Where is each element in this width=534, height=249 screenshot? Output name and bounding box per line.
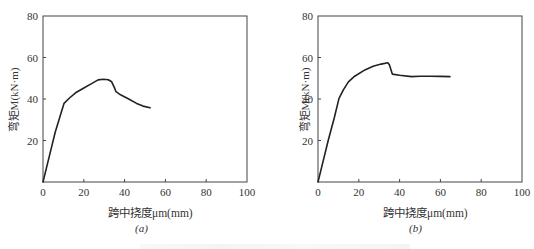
x-tick-label: 60 [435,186,447,198]
y-tick-label: 60 [27,52,39,64]
y-tick-label: 40 [27,93,39,105]
y-axis-label-b: 弯矩M(kN·m) [296,63,312,137]
plot-frame [43,16,247,182]
x-tick-label: 0 [40,186,46,198]
subplot-label-b: (b) [409,222,422,234]
x-tick-label: 0 [315,186,321,198]
y-tick-label: 80 [302,10,314,22]
y-tick-label: 60 [302,52,314,64]
x-tick-label: 80 [201,186,213,198]
subplot-label-a: (a) [135,222,148,234]
chart-panel-a: 02040608010020406080 弯矩M(kN·m) 跨中挠度μm(mm… [0,0,267,249]
x-axis-label-b: 跨中挠度μm(mm) [383,204,468,220]
x-axis-label-a: 跨中挠度μm(mm) [108,204,193,220]
x-tick-label: 20 [353,186,365,198]
y-tick-label: 80 [27,10,39,22]
chart-panel-b: 02040608010020406080 弯矩M(kN·m) 跨中挠度μm(mm… [267,0,534,249]
x-tick-label: 60 [160,186,172,198]
x-tick-label: 100 [514,186,531,198]
x-tick-label: 100 [239,186,256,198]
data-curve [318,63,450,182]
figure-caption-cropped [140,244,410,249]
y-axis-label-a: 弯矩M(kN·m) [5,63,21,137]
y-tick-label: 20 [27,135,39,147]
x-tick-label: 40 [119,186,131,198]
plot-frame [318,16,522,182]
x-tick-label: 40 [394,186,406,198]
data-curve [43,79,150,182]
x-tick-label: 20 [78,186,90,198]
x-tick-label: 80 [476,186,488,198]
